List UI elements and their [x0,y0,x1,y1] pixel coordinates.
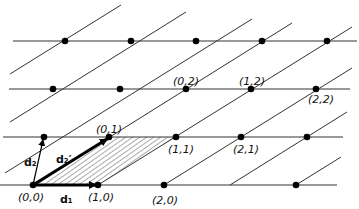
hatched-unit-cell [33,137,176,185]
label-point-0-2: (0,2) [173,75,199,88]
label-point-1-1: (1,1) [168,143,194,156]
label-point-0-1: (0,1) [96,123,122,136]
lattice-svg: (0,0) (1,0) (2,0) (0,1) (1,1) (2,1) (0,2… [0,0,359,209]
label-point-2-1: (2,1) [233,143,259,156]
label-point-1-2: (1,2) [239,75,265,88]
lattice-diagram: (0,0) (1,0) (2,0) (0,1) (1,1) (2,1) (0,2… [0,0,359,209]
label-vector-d1: d₁ [60,193,73,206]
label-vector-d2: d₂ [24,156,37,169]
label-vector-d2-prime: d₂′ [56,153,72,166]
label-point-2-2: (2,2) [308,93,334,106]
horizontal-lattice-lines [0,41,357,185]
label-point-2-0: (2,0) [152,194,178,207]
label-point-0-0: (0,0) [18,191,44,204]
label-point-1-0: (1,0) [88,191,114,204]
